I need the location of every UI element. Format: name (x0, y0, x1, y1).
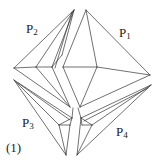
figure-caption: (1) (6, 140, 21, 155)
polyhedra-decomposition-diagram: P2 P1 P3 P4 (1) (0, 0, 161, 162)
piece-p4 (77, 85, 151, 155)
label-p3: P3 (22, 115, 34, 131)
label-p2: P2 (26, 21, 38, 37)
label-p1: P1 (119, 25, 131, 41)
label-p4: P4 (116, 124, 128, 140)
